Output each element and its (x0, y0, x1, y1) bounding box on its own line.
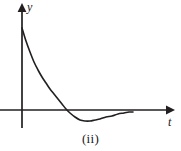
arrow-right-icon (166, 106, 175, 115)
arrow-up-icon (18, 3, 27, 12)
t-axis-label: t (168, 116, 171, 128)
curve-decay-series (22, 28, 133, 121)
graph-canvas (0, 0, 181, 151)
y-axis-label: y (27, 1, 32, 13)
figure-container: y t (ii) (0, 0, 181, 151)
figure-caption: (ii) (0, 132, 181, 145)
